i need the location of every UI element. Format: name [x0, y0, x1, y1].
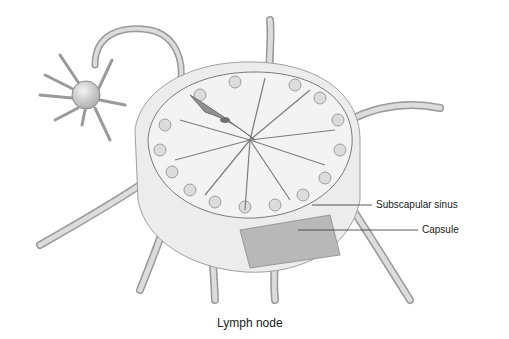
lymph-node-body [135, 62, 360, 272]
label-subscapular-sinus: Subscapular sinus [376, 199, 458, 210]
figure-caption: Lymph node [217, 316, 283, 330]
dendritic-cell [40, 55, 125, 140]
lymph-node-illustration [0, 0, 509, 339]
hilum-vessel [220, 117, 230, 123]
label-capsule: Capsule [422, 224, 459, 235]
